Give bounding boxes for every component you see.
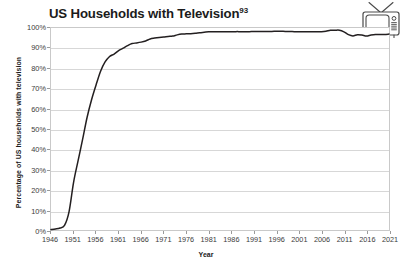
x-axis-tick-mark [390,231,391,234]
x-axis-tick-mark [299,231,300,234]
y-axis-tick-label: 60% [6,104,46,113]
y-axis-tick-label: 50% [6,125,46,134]
title-superscript: 93 [239,6,248,15]
x-axis-tick-mark [95,231,96,234]
x-axis-tick-label: 2021 [373,235,407,244]
x-axis-tick-mark [209,231,210,234]
x-axis-tick-mark [163,231,164,234]
title-text: US Households with Television [49,6,239,21]
y-axis-tick-label: 100% [6,23,46,32]
y-axis-title: Percentage of US households with televis… [15,33,22,233]
series-line-television [51,28,389,230]
y-axis-tick-label: 80% [6,63,46,72]
x-axis-tick-mark [50,231,51,234]
x-axis-title: Year [0,251,412,258]
page-title: US Households with Television93 [49,6,248,21]
y-axis-tick-label: 90% [6,43,46,52]
chart-page: US Households with Television93 [0,0,412,271]
y-axis-tick-label: 30% [6,165,46,174]
x-axis-tick-mark [118,231,119,234]
x-axis-tick-mark [322,231,323,234]
x-axis-tick-mark [186,231,187,234]
x-axis-tick-mark [277,231,278,234]
y-axis-tick-label: 40% [6,145,46,154]
plot-area [50,27,390,231]
y-axis-tick-label: 70% [6,84,46,93]
x-axis-tick-mark [345,231,346,234]
x-axis-tick-mark [73,231,74,234]
x-axis-tick-mark [367,231,368,234]
x-axis-tick-mark [231,231,232,234]
x-axis-tick-mark [254,231,255,234]
y-axis-tick-label: 20% [6,186,46,195]
y-axis-tick-label: 10% [6,206,46,215]
x-axis-tick-mark [141,231,142,234]
